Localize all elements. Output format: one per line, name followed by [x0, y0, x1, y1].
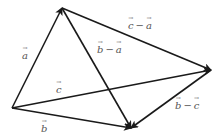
label-b: b: [41, 124, 47, 134]
vector-b-minus-a-arrow: [62, 8, 131, 128]
vector-c-minus-a-arrow: [62, 8, 211, 70]
vector-symbol: a: [22, 51, 28, 61]
vector-symbol: c: [128, 21, 134, 31]
vector-symbol: a: [116, 45, 122, 55]
vector-symbol: a: [146, 21, 152, 31]
label-c: c: [56, 85, 62, 95]
vector-symbol: c: [56, 85, 62, 95]
vector-b-arrow: [12, 108, 131, 128]
vector-symbol: c: [194, 101, 200, 111]
vector-diagram: [0, 0, 224, 140]
label-c-minus-a: c−a: [128, 21, 152, 31]
minus-operator: −: [183, 100, 191, 111]
vector-symbol: b: [97, 45, 103, 55]
minus-operator: −: [136, 20, 144, 31]
vector-a-arrow: [12, 8, 62, 108]
vector-symbol: b: [41, 124, 47, 134]
label-b-minus-a: b−a: [97, 45, 122, 55]
vector-symbol: b: [175, 101, 181, 111]
minus-operator: −: [105, 44, 113, 55]
label-a: a: [22, 51, 28, 61]
label-b-minus-c: b−c: [175, 101, 199, 111]
